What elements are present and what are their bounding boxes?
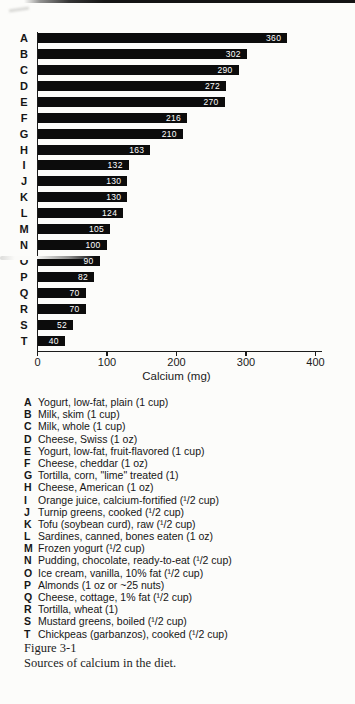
bar: 130	[37, 192, 127, 202]
legend-key: H	[24, 481, 38, 493]
bar-row: S52	[0, 317, 355, 333]
legend-key: K	[24, 518, 38, 530]
category-label: G	[0, 128, 37, 140]
bar-row: F216	[0, 110, 355, 126]
legend-item: KTofu (soybean curd), raw (¹/2 cup)	[0, 518, 355, 530]
legend-item: QCheese, cottage, 1% fat (¹/2 cup)	[0, 591, 355, 603]
bar-value-label: 124	[102, 208, 123, 218]
x-axis-tick-label: 200	[162, 356, 192, 368]
bar-row: M105	[0, 221, 355, 237]
category-label: P	[0, 271, 37, 283]
category-label: H	[0, 144, 37, 156]
x-axis-tick-label: 0	[23, 356, 53, 368]
bar: 100	[37, 240, 107, 250]
bar-value-label: 270	[204, 97, 225, 107]
bar-value-label: 130	[106, 192, 127, 202]
calcium-sources-figure: A360B302C290D272E270F216G210H163I132J130…	[0, 0, 355, 704]
legend-key: T	[24, 628, 38, 640]
bar-value-label: 360	[266, 33, 287, 43]
bar-row: K130	[0, 189, 355, 205]
bar-row: H163	[0, 142, 355, 158]
bar: 105	[37, 224, 110, 234]
bar-value-label: 302	[226, 49, 247, 59]
bar-row: B302	[0, 46, 355, 62]
bar-row: J130	[0, 173, 355, 189]
legend-key: Q	[24, 591, 38, 603]
legend-text: Almonds (1 oz or ~25 nuts)	[38, 579, 164, 591]
legend-key: L	[24, 530, 38, 542]
category-label: R	[0, 303, 37, 315]
bar-row: I132	[0, 158, 355, 174]
scan-edge-artifact	[24, 0, 355, 3]
x-axis-tick-label: 300	[231, 356, 261, 368]
legend-text: Cheese, American (1 oz)	[38, 481, 154, 493]
bar-row: L124	[0, 205, 355, 221]
legend-item: BMilk, skim (1 cup)	[0, 408, 355, 420]
x-axis-tick-label: 100	[92, 356, 122, 368]
bar-value-label: 216	[166, 113, 187, 123]
legend-text: Cheese, cottage, 1% fat (¹/2 cup)	[38, 591, 192, 603]
category-label: L	[0, 207, 37, 219]
bar: 302	[37, 49, 247, 59]
bar-value-label: 105	[89, 224, 110, 234]
bar: 40	[37, 336, 65, 346]
legend-text: Yogurt, low-fat, plain (1 cup)	[38, 396, 168, 408]
x-axis-line	[37, 351, 322, 352]
bar-value-label: 52	[57, 320, 73, 330]
legend-key: P	[24, 579, 38, 591]
bar-value-label: 130	[106, 176, 127, 186]
bar-value-label: 290	[217, 65, 238, 75]
legend-key: S	[24, 615, 38, 627]
legend-key: F	[24, 457, 38, 469]
legend-key: D	[24, 433, 38, 445]
legend-item: OIce cream, vanilla, 10% fat (¹/2 cup)	[0, 567, 355, 579]
legend-text: Sardines, canned, bones eaten (1 oz)	[38, 530, 213, 542]
x-axis-tick-label: 400	[301, 356, 331, 368]
legend-key: N	[24, 554, 38, 566]
bar: 132	[37, 160, 129, 170]
legend-key: I	[24, 494, 38, 506]
bar: 82	[37, 272, 94, 282]
legend-text: Frozen yogurt (¹/2 cup)	[38, 542, 145, 554]
bar: 124	[37, 208, 123, 218]
legend-item: LSardines, canned, bones eaten (1 oz)	[0, 530, 355, 542]
bar-row: D272	[0, 78, 355, 94]
bar-value-label: 70	[70, 288, 86, 298]
legend-key: R	[24, 603, 38, 615]
bar-value-label: 163	[129, 145, 150, 155]
bar-rows: A360B302C290D272E270F216G210H163I132J130…	[0, 30, 355, 349]
category-label: B	[0, 48, 37, 60]
legend-item: IOrange juice, calcium-fortified (¹/2 cu…	[0, 494, 355, 506]
y-axis-line	[37, 32, 38, 351]
legend-item: JTurnip greens, cooked (¹/2 cup)	[0, 506, 355, 518]
bar-row: P82	[0, 269, 355, 285]
category-label: C	[0, 64, 37, 76]
legend-text: Tortilla, wheat (1)	[38, 603, 118, 615]
bar: 272	[37, 81, 226, 91]
legend-item: FCheese, cheddar (1 oz)	[0, 457, 355, 469]
legend-item: SMustard greens, boiled (¹/2 cup)	[0, 615, 355, 627]
bar-value-label: 272	[205, 81, 226, 91]
legend-item: AYogurt, low-fat, plain (1 cup)	[0, 396, 355, 408]
bar: 216	[37, 113, 187, 123]
category-label: E	[0, 96, 37, 108]
bar-value-label: 40	[49, 336, 65, 346]
scan-smudge-artifact	[9, 7, 29, 13]
bar-row: C290	[0, 62, 355, 78]
legend-text: Cheese, Swiss (1 oz)	[38, 433, 137, 445]
category-label: N	[0, 239, 37, 251]
category-label: Q	[0, 287, 37, 299]
bar-row: N100	[0, 237, 355, 253]
bar: 70	[37, 288, 86, 298]
legend-key: J	[24, 506, 38, 518]
scan-smudge-artifact	[0, 256, 37, 260]
legend-text: Milk, whole (1 cup)	[38, 420, 126, 432]
legend-text: Milk, skim (1 cup)	[38, 408, 120, 420]
bar: 130	[37, 176, 127, 186]
bar-value-label: 132	[108, 160, 129, 170]
bar-row: T40	[0, 333, 355, 349]
figure-title: Sources of calcium in the diet.	[24, 656, 176, 671]
category-label: I	[0, 159, 37, 171]
legend: AYogurt, low-fat, plain (1 cup)BMilk, sk…	[0, 396, 355, 640]
bar: 270	[37, 97, 225, 107]
